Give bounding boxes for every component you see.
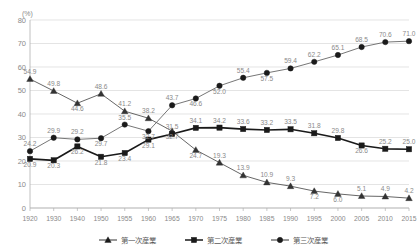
data-point-label: 21.8: [95, 159, 108, 166]
data-point-label: 25.2: [379, 138, 392, 145]
data-point-marker-square: [383, 146, 388, 151]
data-point-label: 71.0: [403, 30, 416, 37]
data-point-label: 13.9: [237, 164, 250, 171]
data-point-marker-square: [217, 125, 222, 130]
data-point-label: 70.6: [379, 31, 392, 38]
data-point-marker-circle: [312, 59, 317, 64]
data-point-label: 41.2: [118, 100, 131, 107]
data-point-marker-square: [241, 126, 246, 131]
data-point-label: 29.7: [95, 140, 108, 147]
data-point-labels-group: 54.949.844.648.641.238.232.724.719.313.9…: [24, 30, 416, 203]
data-point-label: 34.1: [189, 117, 202, 124]
data-point-marker-circle: [51, 135, 56, 140]
data-point-label: 20.3: [47, 162, 60, 169]
x-tick-label: 1975: [212, 215, 227, 222]
data-point-label: 9.3: [286, 175, 295, 182]
data-point-label: 34.2: [213, 117, 226, 124]
data-point-label: 19.3: [213, 152, 226, 159]
data-point-marker-square: [288, 127, 293, 132]
legend-item[interactable]: 第二次産業: [185, 236, 243, 245]
data-point-marker-circle: [335, 52, 340, 57]
data-point-label: 65.1: [332, 44, 345, 51]
data-point-label: 25.0: [403, 138, 416, 145]
y-axis-unit-label: (%): [22, 10, 33, 18]
legend-label: 第一次産業: [121, 236, 157, 245]
x-tick-label: 1980: [236, 215, 251, 222]
data-point-marker-circle: [75, 137, 80, 142]
data-point-marker-circle: [240, 75, 245, 80]
x-tick-label: 2015: [401, 215, 416, 222]
data-point-label: 46.6: [189, 100, 202, 107]
legend-item[interactable]: 第三次産業: [271, 236, 329, 245]
data-point-label: 7.2: [310, 193, 319, 200]
data-point-label: 24.7: [189, 152, 202, 159]
y-tick-label: 50: [18, 86, 26, 95]
data-point-label: 48.6: [95, 83, 108, 90]
data-point-marker-square: [264, 127, 269, 132]
data-point-label: 4.2: [404, 187, 413, 194]
legend-label: 第二次産業: [207, 236, 243, 245]
data-point-label: 6.0: [333, 196, 342, 203]
x-tick-label: 1950: [94, 215, 109, 222]
data-point-label: 43.7: [166, 94, 179, 101]
data-point-label: 55.4: [237, 67, 250, 74]
data-point-label: 49.8: [47, 80, 60, 87]
series-line-tertiary: [30, 41, 409, 151]
data-point-marker-triangle: [98, 90, 105, 96]
data-point-label: 26.6: [355, 147, 368, 154]
y-tick-label: 10: [18, 180, 26, 189]
data-point-label: 24.2: [24, 140, 37, 147]
data-point-marker-circle: [359, 44, 364, 49]
x-tick-label: 1960: [141, 215, 156, 222]
x-tick-label: 1990: [283, 215, 298, 222]
data-point-label: 57.5: [260, 75, 273, 82]
data-point-label: 33.6: [237, 118, 250, 125]
x-tick-label: 1955: [117, 215, 132, 222]
legend-label: 第三次産業: [293, 236, 329, 245]
data-point-label: 35.5: [118, 114, 131, 121]
data-point-marker-square: [191, 237, 196, 242]
data-point-label: 33.5: [284, 118, 297, 125]
legend: 第一次産業第二次産業第三次産業: [99, 236, 329, 245]
data-point-marker-circle: [288, 66, 293, 71]
x-tick-label: 1920: [22, 215, 37, 222]
data-point-marker-triangle: [240, 172, 247, 178]
data-point-marker-triangle: [27, 76, 34, 82]
data-point-label: 33.2: [260, 119, 273, 126]
data-point-label: 23.4: [118, 155, 131, 162]
x-tick-label: 1930: [46, 215, 61, 222]
data-point-label: 31.5: [166, 123, 179, 130]
data-point-marker-circle: [169, 103, 174, 108]
y-tick-label: 40: [18, 110, 26, 119]
data-point-label: 10.9: [260, 171, 273, 178]
data-point-label: 31.8: [308, 122, 321, 129]
data-point-marker-circle: [122, 122, 127, 127]
data-point-label: 32.7: [166, 133, 179, 140]
data-point-label: 26.2: [71, 148, 84, 155]
axes-group: [30, 20, 409, 211]
x-tick-label: 1985: [259, 215, 274, 222]
y-axis-tick-labels: 01020304050607080: [18, 16, 26, 213]
gridlines-group: [30, 20, 409, 208]
data-point-label: 29.2: [71, 128, 84, 135]
data-point-label: 32.7: [142, 133, 155, 140]
x-tick-label: 1970: [188, 215, 203, 222]
data-point-marker-circle: [277, 237, 282, 242]
data-point-label: 20.9: [24, 161, 37, 168]
data-point-label: 29.1: [142, 142, 155, 149]
data-point-label: 68.5: [355, 36, 368, 43]
data-point-label: 59.4: [284, 57, 297, 64]
x-tick-label: 1995: [307, 215, 322, 222]
data-point-label: 52.0: [213, 88, 226, 95]
data-point-marker-circle: [27, 148, 32, 153]
x-tick-label: 1940: [70, 215, 85, 222]
data-point-marker-square: [406, 147, 411, 152]
data-point-marker-circle: [406, 38, 411, 43]
data-point-label: 38.2: [142, 107, 155, 114]
x-tick-label: 1965: [165, 215, 180, 222]
data-point-marker-triangle: [216, 159, 223, 165]
data-point-marker-circle: [383, 39, 388, 44]
legend-item[interactable]: 第一次産業: [99, 236, 157, 245]
data-point-label: 4.9: [381, 185, 390, 192]
data-point-marker-square: [335, 135, 340, 140]
